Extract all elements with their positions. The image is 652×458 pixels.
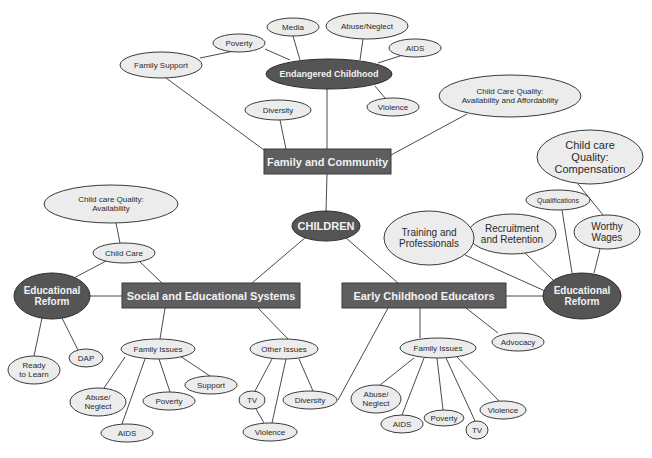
node-aids-l: AIDS <box>101 424 153 442</box>
connector-line <box>252 237 306 283</box>
node-label: Recruitment <box>485 223 539 234</box>
connector-line <box>160 308 165 339</box>
node-label: Neglect <box>84 402 112 411</box>
node-label: Child care Quality: <box>78 195 143 204</box>
node-label: Child care <box>565 139 615 151</box>
connector-line <box>360 39 363 60</box>
node-ccq-avail: Child care Quality:Availability <box>44 185 178 223</box>
node-ccq-afford: Child Care Quality:Availability and Affo… <box>439 75 581 117</box>
node-abuse-l: Abuse/Neglect <box>70 388 126 416</box>
connector-line <box>34 318 42 356</box>
node-children: CHILDREN <box>292 211 360 241</box>
node-poverty-top: Poverty <box>213 34 265 52</box>
node-training: Training andProfessionals <box>384 211 474 265</box>
connector-line <box>299 359 313 391</box>
node-label: Abuse/ <box>86 393 112 402</box>
node-family-community: Family and Community <box>264 149 391 174</box>
node-label: AIDS <box>406 44 425 53</box>
node-label: Social and Educational Systems <box>127 290 296 302</box>
connector-line <box>594 249 600 273</box>
node-diversity-top: Diversity <box>245 100 311 120</box>
connector-line <box>391 114 467 155</box>
connector-line <box>265 49 290 60</box>
node-tv-l: TV <box>239 391 265 409</box>
connector-line <box>104 357 125 388</box>
node-label: Poverty <box>225 39 252 48</box>
node-label: AIDS <box>393 420 412 429</box>
node-worthy-wages: WorthyWages <box>574 215 640 249</box>
connector-line <box>525 253 553 280</box>
node-label: CHILDREN <box>298 220 355 232</box>
node-label: Ready <box>22 361 45 370</box>
node-qualifications: Qualifications <box>526 190 590 210</box>
node-label: Violence <box>378 103 409 112</box>
node-label: Reform <box>34 296 69 307</box>
node-abuse-top: Abuse/Neglect <box>326 13 408 39</box>
node-advocacy: Advocacy <box>492 333 544 351</box>
node-label: Diversity <box>295 396 326 405</box>
node-endangered: Endangered Childhood <box>266 59 392 89</box>
node-label: Child Care Quality: <box>476 87 543 96</box>
connector-line <box>378 55 403 63</box>
node-label: Abuse/Neglect <box>341 22 394 31</box>
node-family-issues-l: Family Issues <box>121 339 195 359</box>
node-aids-r: AIDS <box>381 415 423 433</box>
node-label: TV <box>247 396 258 405</box>
node-poverty-l: Poverty <box>143 392 195 410</box>
connector-line <box>562 210 572 273</box>
node-label: Media <box>282 23 304 32</box>
node-label: and Retention <box>481 234 543 245</box>
node-label: Poverty <box>430 414 457 423</box>
node-label: Neglect <box>362 399 390 408</box>
node-label: Qualifications <box>537 197 580 205</box>
node-diversity-l: Diversity <box>283 391 337 409</box>
connector-line <box>326 174 327 211</box>
node-violence-top: Violence <box>367 98 419 116</box>
node-label: Support <box>197 381 226 390</box>
node-label: Poverty <box>155 397 182 406</box>
node-label: Professionals <box>399 238 459 249</box>
node-abuse-r: Abuse/Neglect <box>351 385 401 413</box>
node-ccq-comp: Child careQuality:Compensation <box>537 130 643 184</box>
node-label: Availability <box>92 204 130 213</box>
node-dap: DAP <box>69 349 103 367</box>
connector-line <box>256 409 264 423</box>
node-label: Family and Community <box>267 156 389 168</box>
connector-line <box>140 262 162 283</box>
node-ecе: Early Childhood Educators <box>342 283 506 308</box>
node-label: Wages <box>592 232 623 243</box>
connector-line <box>437 358 443 410</box>
node-media: Media <box>267 18 319 36</box>
connector-line <box>280 120 286 149</box>
node-label: Family Issues <box>134 345 183 354</box>
node-violence-l: Violence <box>243 423 297 441</box>
node-social-edu: Social and Educational Systems <box>122 283 300 308</box>
node-aids-top: AIDS <box>389 39 441 57</box>
node-child-care: Child Care <box>93 243 155 263</box>
node-edreform-right: EducationalReform <box>543 273 621 319</box>
node-label: Advocacy <box>501 338 536 347</box>
node-label: Violence <box>488 406 519 415</box>
node-label: DAP <box>78 354 94 363</box>
node-label: Diversity <box>263 106 294 115</box>
node-label: Other Issues <box>261 345 306 354</box>
connector-line <box>380 358 414 385</box>
connector-line <box>122 359 145 424</box>
node-label: TV <box>472 426 483 435</box>
children-concept-map: CHILDRENFamily and CommunitySocial and E… <box>0 0 652 458</box>
node-label: Compensation <box>555 163 626 175</box>
connector-line <box>255 359 272 391</box>
node-support-l: Support <box>185 376 237 394</box>
node-label: Family Support <box>134 61 189 70</box>
node-family-support: Family Support <box>120 52 202 78</box>
node-label: Educational <box>24 285 81 296</box>
node-label: Family Issues <box>414 344 463 353</box>
connector-line <box>466 308 498 333</box>
node-tv-r: TV <box>466 421 488 439</box>
node-ready: Readyto Learn <box>8 356 60 384</box>
node-other-issues: Other Issues <box>250 339 318 359</box>
node-label: Early Childhood Educators <box>353 290 494 302</box>
node-label: to Learn <box>19 370 48 379</box>
node-label: AIDS <box>118 429 137 438</box>
node-label: Violence <box>255 428 286 437</box>
